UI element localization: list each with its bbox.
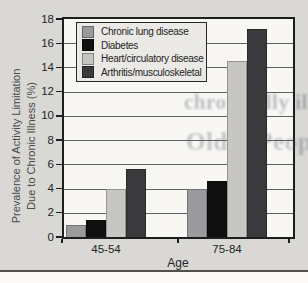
legend-swatch-1 <box>82 39 94 51</box>
legend-label-0: Chronic lung disease <box>101 26 188 37</box>
bar-75-84-3 <box>247 29 267 237</box>
y-tick-label-2: 2 <box>24 206 54 219</box>
x-category-label-75-84: 75-84 <box>187 243 267 257</box>
legend-swatch-0 <box>82 26 94 38</box>
y-tick-label-14: 14 <box>24 61 54 74</box>
y-axis-title-line-1: Prevalence of Activity Limitation <box>9 69 24 224</box>
bar-45-54-2 <box>106 189 126 237</box>
legend-item-1: Diabetes <box>82 39 202 51</box>
y-tick-mark-12 <box>56 91 62 92</box>
y-tick-label-4: 4 <box>24 182 54 195</box>
y-tick-label-16: 16 <box>24 37 54 50</box>
page-margin <box>0 272 308 283</box>
bar-75-84-1 <box>207 181 227 237</box>
y-tick-mark-4 <box>56 188 62 189</box>
legend-item-2: Heart/circulatory disease <box>82 53 202 65</box>
bar-45-54-3 <box>126 169 146 237</box>
legend-swatch-2 <box>82 53 94 65</box>
y-tick-mark-16 <box>56 43 62 44</box>
y-tick-mark-2 <box>56 212 62 213</box>
legend-label-1: Diabetes <box>101 40 138 51</box>
x-tick-mark-2 <box>288 239 289 243</box>
y-tick-label-10: 10 <box>24 109 54 122</box>
y-tick-label-8: 8 <box>24 134 54 147</box>
legend-label-2: Heart/circulatory disease <box>101 53 204 64</box>
bar-75-84-2 <box>227 61 247 237</box>
y-tick-mark-18 <box>56 18 62 19</box>
legend-label-3: Arthritis/musculoskeletal <box>101 67 201 78</box>
y-tick-label-0: 0 <box>24 231 54 244</box>
scanned-figure-page: Prevalence of Activity Limitation Due to… <box>0 0 308 283</box>
y-tick-mark-14 <box>56 67 62 68</box>
x-category-label-45-54: 45-54 <box>66 243 146 257</box>
y-tick-mark-0 <box>56 236 62 237</box>
bar-75-84-0 <box>187 189 207 237</box>
legend: Chronic lung diseaseDiabetesHeart/circul… <box>76 22 207 82</box>
y-tick-mark-10 <box>56 115 62 116</box>
bar-45-54-1 <box>86 220 106 237</box>
y-tick-mark-8 <box>56 139 62 140</box>
y-tick-label-12: 12 <box>24 85 54 98</box>
x-tick-mark-1 <box>177 239 178 243</box>
x-axis-title: Age <box>138 256 218 270</box>
legend-item-3: Arthritis/musculoskeletal <box>82 66 202 78</box>
bar-45-54-0 <box>66 225 86 237</box>
x-tick-mark-0 <box>61 239 62 243</box>
y-tick-mark-6 <box>56 164 62 165</box>
y-tick-label-18: 18 <box>24 13 54 26</box>
y-tick-label-6: 6 <box>24 158 54 171</box>
legend-item-0: Chronic lung disease <box>82 26 202 38</box>
legend-swatch-3 <box>82 66 94 78</box>
